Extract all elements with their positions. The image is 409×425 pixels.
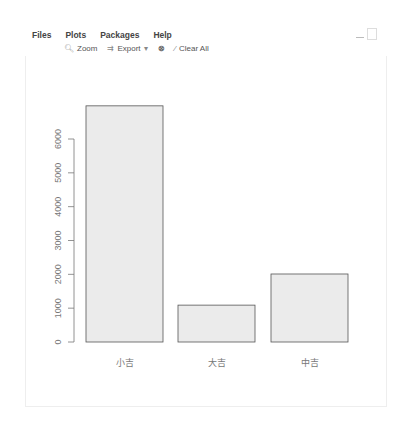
y-tick-label: 1000 <box>53 298 63 318</box>
y-tick-label: 2000 <box>53 264 63 284</box>
y-axis: 0100020003000400050006000 <box>53 129 74 345</box>
bars <box>86 106 348 342</box>
bar <box>178 305 255 342</box>
x-tick-label: 大吉 <box>208 357 226 368</box>
y-tick-label: 5000 <box>53 163 63 183</box>
bar-chart: 0100020003000400050006000 小吉大吉中吉 <box>0 0 409 425</box>
bar <box>86 106 163 342</box>
y-tick-label: 0 <box>53 339 63 344</box>
x-axis-labels: 小吉大吉中吉 <box>116 357 319 368</box>
x-tick-label: 小吉 <box>116 358 134 368</box>
y-tick-label: 6000 <box>53 129 63 149</box>
x-tick-label: 中吉 <box>301 357 319 368</box>
y-tick-label: 4000 <box>53 197 63 217</box>
bar <box>271 274 348 342</box>
y-tick-label: 3000 <box>53 230 63 250</box>
